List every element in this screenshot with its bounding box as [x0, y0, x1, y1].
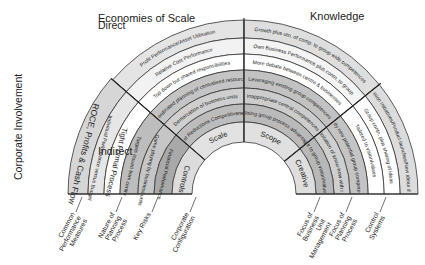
left-leader-2: [152, 197, 158, 212]
left-leader-3: [190, 197, 196, 212]
left-footer-label-3: CorporateConfiguration: [165, 211, 197, 254]
right-footer-label-1: Focus ofPlanningProcess: [327, 211, 358, 245]
right-leader-2: [380, 197, 386, 212]
right-footer-label-2: ControlSystems: [361, 211, 387, 242]
left-footer-label-1: Nature ofPlanningProcess: [97, 211, 129, 246]
footer-labels: CommonPerformanceMeasuresNature ofPlanni…: [51, 197, 387, 260]
left-footer-label-0: CommonPerformanceMeasures: [51, 211, 88, 256]
economies-of-scale-header: Economies of Scale: [98, 12, 195, 24]
corporate-involvement-axis-title: Corporate Involvement: [12, 74, 24, 180]
left-footer-label-2: Key Risks: [132, 211, 154, 242]
knowledge-header: Knowledge: [310, 10, 364, 22]
right-leader-1: [346, 197, 352, 212]
left-leader-1: [116, 197, 122, 212]
right-leader-0: [314, 197, 320, 212]
indirect-label: Indirect: [98, 145, 133, 157]
corporate-involvement-diagram: Profit Performance/Asset UtilisationRela…: [0, 0, 425, 265]
right-footer-label-0: Focus ofBusinessUnitManagement: [289, 211, 334, 260]
